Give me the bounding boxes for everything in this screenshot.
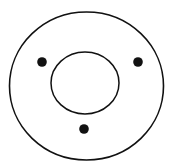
dot-bottom	[79, 124, 89, 134]
dot-upper-left	[37, 57, 47, 67]
background	[0, 0, 174, 164]
diagram-canvas	[0, 0, 174, 164]
dot-upper-right	[133, 57, 143, 67]
